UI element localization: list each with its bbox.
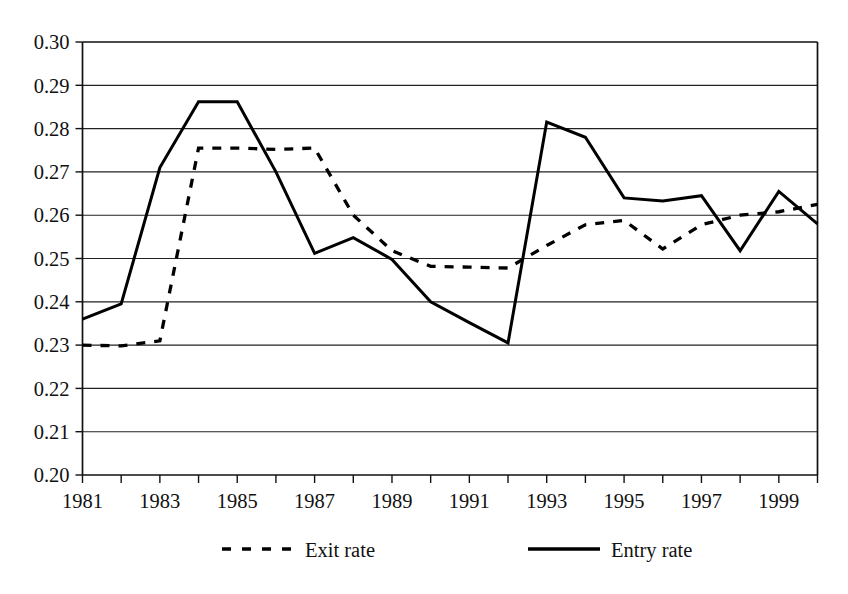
tick-marks-group <box>76 42 818 483</box>
x-tick-label: 1997 <box>681 490 722 512</box>
legend-label-entry-rate: Entry rate <box>611 539 692 562</box>
y-tick-label: 0.26 <box>34 204 70 226</box>
y-tick-label: 0.28 <box>34 118 70 140</box>
chart-legend: Exit rateEntry rate <box>222 539 692 562</box>
y-tick-label: 0.23 <box>34 334 70 356</box>
x-tick-label: 1989 <box>371 490 412 512</box>
x-tick-label: 1995 <box>604 490 645 512</box>
y-tick-label: 0.30 <box>34 31 70 53</box>
x-tick-label: 1987 <box>294 490 335 512</box>
x-tick-label: 1999 <box>758 490 799 512</box>
y-tick-label: 0.24 <box>34 291 70 313</box>
y-tick-label: 0.27 <box>34 161 70 183</box>
x-tick-label: 1983 <box>139 490 180 512</box>
legend-label-exit-rate: Exit rate <box>305 539 375 561</box>
data-series-group <box>83 102 818 346</box>
x-tick-label: 1981 <box>62 490 103 512</box>
y-tick-label: 0.22 <box>34 378 70 400</box>
line-chart-svg: 0.200.210.220.230.240.250.260.270.280.29… <box>0 0 848 594</box>
x-axis-labels-group: 1981198319851987198919911993199519971999 <box>62 490 799 512</box>
gridlines-group <box>83 42 818 475</box>
y-tick-label: 0.20 <box>34 464 70 486</box>
y-tick-label: 0.21 <box>34 421 70 443</box>
chart-figure: 0.200.210.220.230.240.250.260.270.280.29… <box>0 0 848 594</box>
y-axis-labels-group: 0.200.210.220.230.240.250.260.270.280.29… <box>34 31 70 486</box>
x-tick-label: 1985 <box>217 490 258 512</box>
x-tick-label: 1991 <box>449 490 490 512</box>
y-tick-label: 0.29 <box>34 75 70 97</box>
y-tick-label: 0.25 <box>34 248 70 270</box>
x-tick-label: 1993 <box>526 490 567 512</box>
series-line-exit-rate <box>83 148 818 346</box>
